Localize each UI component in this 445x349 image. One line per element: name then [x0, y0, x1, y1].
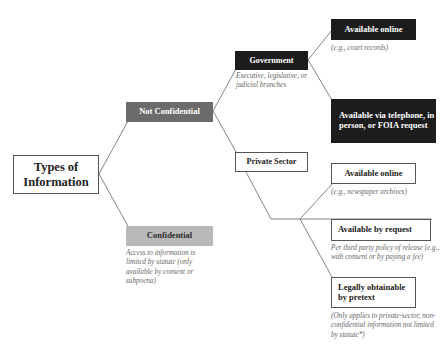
node-private-available-online-label: Available online [344, 169, 402, 179]
node-private-available-online: Available online [331, 163, 416, 184]
gov-available-online-note: (e.g., court records) [331, 44, 431, 53]
node-available-by-request: Available by request [331, 219, 431, 241]
private-available-online-note: (e.g., newspaper archives) [331, 188, 441, 197]
confidential-note: Access to information is limited by stat… [126, 249, 216, 286]
node-private-sector-label: Private Sector [247, 157, 297, 166]
node-government-label: Government [249, 56, 293, 65]
node-not-confidential-label: Not Confidential [139, 107, 200, 117]
node-gov-available-online: Available online [331, 19, 416, 40]
node-available-by-request-label: Available by request [338, 225, 412, 235]
root-node-label: Types of Information [14, 160, 98, 189]
legally-obtainable-by-pretext-note: (Only applies to private-sector, non-con… [331, 312, 439, 340]
node-gov-available-via-request-label: Available via telephone, in person, or F… [339, 111, 436, 131]
government-note: Executive, legislative, or judicial bran… [236, 72, 308, 91]
node-confidential-label: Confidential [147, 231, 192, 241]
root-node-types-of-information: Types of Information [13, 155, 99, 194]
node-not-confidential: Not Confidential [126, 102, 213, 122]
node-legally-obtainable-by-pretext: Legally obtainable by pretext [331, 277, 416, 308]
node-legally-obtainable-by-pretext-label: Legally obtainable by pretext [338, 283, 415, 303]
node-confidential: Confidential [126, 226, 213, 246]
node-gov-available-online-label: Available online [344, 25, 402, 35]
node-government: Government [235, 51, 308, 70]
available-by-request-note: Per third party policy of release (e.g.,… [331, 244, 443, 263]
node-gov-available-via-request: Available via telephone, in person, or F… [331, 99, 436, 143]
node-private-sector: Private Sector [235, 152, 308, 172]
